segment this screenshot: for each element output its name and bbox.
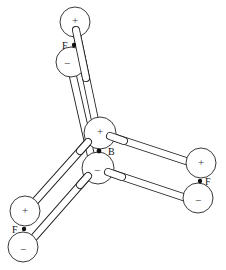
nucleus-dot [198,179,202,183]
sign-positive: + [97,125,103,137]
bond-lower-left [30,142,88,242]
sign-positive: + [198,156,204,168]
sign-positive: + [72,14,78,26]
atom-label-f: F [62,40,68,51]
atom-label-f: F [12,224,18,235]
bond-right [108,136,192,199]
fluorine-lower-left: + − F [8,196,40,262]
fluorine-top: + − F [56,7,90,78]
sign-negative: − [20,243,26,255]
sign-positive: + [22,204,28,216]
fluorine-right: + − F [183,148,216,213]
sign-negative: − [195,194,201,206]
bf3-orbital-diagram: + − F + − B + − F + − F [0,0,226,270]
atom-label-b: B [108,146,115,157]
atom-label-f: F [205,176,211,187]
sign-negative: − [64,57,70,69]
sign-negative: − [94,164,100,176]
nucleus-dot [22,227,26,231]
nucleus-dot [97,149,102,154]
nucleus-dot [72,43,76,47]
